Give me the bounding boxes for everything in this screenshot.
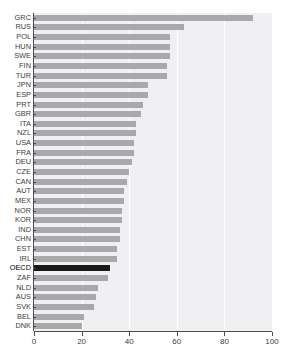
bar-rus xyxy=(34,24,184,30)
y-tick-ind xyxy=(33,230,36,231)
y-tick-rus xyxy=(33,27,36,28)
category-label-aus: AUS xyxy=(0,293,31,300)
y-tick-deu xyxy=(33,162,36,163)
x-tick-20 xyxy=(82,332,83,336)
y-tick-pol xyxy=(33,37,36,38)
category-label-irl: IRL xyxy=(0,255,31,262)
bar-swe xyxy=(34,53,170,59)
y-tick-mex xyxy=(33,201,36,202)
y-tick-tur xyxy=(33,76,36,77)
category-label-swe: SWE xyxy=(0,52,31,59)
bar-gbr xyxy=(34,111,141,117)
category-label-usa: USA xyxy=(0,139,31,146)
bar-aus xyxy=(34,294,96,300)
bar-fin xyxy=(34,63,167,69)
category-axis: GRCRUSPOLHUNSWEFINTURJPNESPPRTGBRITANZLU… xyxy=(0,13,31,331)
category-label-tur: TUR xyxy=(0,72,31,79)
category-label-ind: IND xyxy=(0,226,31,233)
y-tick-aut xyxy=(33,191,36,192)
category-label-chn: CHN xyxy=(0,235,31,242)
category-label-nzl: NZL xyxy=(0,129,31,136)
y-tick-ita xyxy=(33,124,36,125)
bar-usa xyxy=(34,140,134,146)
bar-fra xyxy=(34,150,134,156)
category-label-kor: KOR xyxy=(0,216,31,223)
category-label-ita: ITA xyxy=(0,120,31,127)
category-label-est: EST xyxy=(0,245,31,252)
y-tick-oecd xyxy=(33,268,36,269)
bar-bel xyxy=(34,314,84,320)
category-label-bel: BEL xyxy=(0,313,31,320)
category-label-prt: PRT xyxy=(0,101,31,108)
bar-jpn xyxy=(34,82,148,88)
y-tick-swe xyxy=(33,56,36,57)
category-label-nld: NLD xyxy=(0,284,31,291)
y-tick-bel xyxy=(33,317,36,318)
x-tick-40 xyxy=(129,332,130,336)
y-tick-nzl xyxy=(33,133,36,134)
y-tick-est xyxy=(33,249,36,250)
bar-cze xyxy=(34,169,129,175)
x-tick-label-20: 20 xyxy=(70,338,94,346)
x-axis-spine xyxy=(34,331,272,332)
bar-grc xyxy=(34,15,253,21)
y-tick-aus xyxy=(33,297,36,298)
bar-irl xyxy=(34,256,117,262)
bar-deu xyxy=(34,159,132,165)
bar-nzl xyxy=(34,130,136,136)
y-tick-esp xyxy=(33,95,36,96)
bar-aut xyxy=(34,188,124,194)
x-tick-80 xyxy=(224,332,225,336)
category-label-fin: FIN xyxy=(0,62,31,69)
bar-nld xyxy=(34,285,98,291)
bar-mex xyxy=(34,198,124,204)
y-tick-jpn xyxy=(33,85,36,86)
bar-hun xyxy=(34,44,170,50)
category-label-deu: DEU xyxy=(0,158,31,165)
bar-est xyxy=(34,246,117,252)
y-tick-nld xyxy=(33,288,36,289)
gridline-100 xyxy=(272,13,273,331)
y-tick-nor xyxy=(33,211,36,212)
x-tick-label-80: 80 xyxy=(212,338,236,346)
x-tick-100 xyxy=(272,332,273,336)
bar-ind xyxy=(34,227,120,233)
bar-chn xyxy=(34,236,120,242)
y-tick-dnk xyxy=(33,326,36,327)
category-label-mex: MEX xyxy=(0,197,31,204)
horizontal-bar-chart: GRCRUSPOLHUNSWEFINTURJPNESPPRTGBRITANZLU… xyxy=(0,0,284,359)
bar-kor xyxy=(34,217,122,223)
bar-oecd xyxy=(34,265,110,271)
y-tick-kor xyxy=(33,220,36,221)
x-tick-60 xyxy=(177,332,178,336)
y-tick-chn xyxy=(33,239,36,240)
y-tick-fra xyxy=(33,153,36,154)
bar-svk xyxy=(34,304,94,310)
category-label-dnk: DNK xyxy=(0,322,31,329)
y-tick-usa xyxy=(33,143,36,144)
bar-prt xyxy=(34,102,143,108)
category-label-jpn: JPN xyxy=(0,81,31,88)
bar-pol xyxy=(34,34,170,40)
x-tick-label-60: 60 xyxy=(165,338,189,346)
category-label-aut: AUT xyxy=(0,187,31,194)
gridline-80 xyxy=(224,13,225,331)
y-tick-gbr xyxy=(33,114,36,115)
bar-esp xyxy=(34,92,148,98)
category-label-esp: ESP xyxy=(0,91,31,98)
y-tick-grc xyxy=(33,18,36,19)
category-label-nor: NOR xyxy=(0,207,31,214)
chart-title xyxy=(0,0,284,12)
plot-area xyxy=(34,13,272,331)
y-tick-svk xyxy=(33,307,36,308)
bar-nor xyxy=(34,208,122,214)
x-tick-label-100: 100 xyxy=(260,338,284,346)
y-tick-can xyxy=(33,182,36,183)
category-label-zaf: ZAF xyxy=(0,274,31,281)
bar-dnk xyxy=(34,323,82,329)
category-label-grc: GRC xyxy=(0,14,31,21)
bar-ita xyxy=(34,121,136,127)
gridline-60 xyxy=(177,13,178,331)
x-tick-label-0: 0 xyxy=(22,338,46,346)
gridline-40 xyxy=(129,13,130,331)
